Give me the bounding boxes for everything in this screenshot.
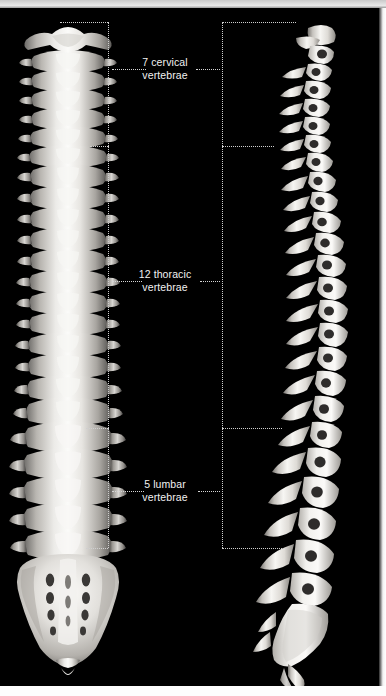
label-thoracic-line2: vertebrae [106, 281, 224, 294]
bracket-divider-lumbar-right [222, 428, 282, 429]
label-lumbar-line2: vertebrae [106, 491, 224, 504]
bracket-bottom-line-lumbar [86, 548, 108, 549]
label-lumbar-line1: 5 lumbar [106, 478, 224, 491]
page-edge-right [379, 8, 386, 686]
page-edge-bottom [0, 686, 386, 696]
illustration-canvas: 7 cervical vertebrae 12 thoracic vertebr… [0, 0, 386, 696]
bracket-divider-cervical-thoracic [90, 146, 108, 147]
label-thoracic: 12 thoracic vertebrae [106, 268, 224, 294]
label-cervical-line2: vertebrae [106, 69, 224, 82]
bracket-bottom-line-lumbar-right [222, 548, 286, 549]
bracket-top-line-cervical-right [222, 22, 296, 23]
label-cervical: 7 cervical vertebrae [106, 56, 224, 82]
bracket-divider-thoracic-right [222, 146, 274, 147]
label-cervical-line1: 7 cervical [106, 56, 224, 69]
bracket-left-line-cervical [108, 22, 109, 146]
bracket-divider-thoracic-lumbar [86, 428, 108, 429]
bracket-top-line-cervical [60, 22, 108, 23]
annotation-layer: 7 cervical vertebrae 12 thoracic vertebr… [0, 0, 386, 696]
label-thoracic-line1: 12 thoracic [106, 268, 224, 281]
page-edge-top [0, 0, 386, 8]
label-lumbar: 5 lumbar vertebrae [106, 478, 224, 504]
bracket-right-line-cervical [222, 22, 223, 146]
